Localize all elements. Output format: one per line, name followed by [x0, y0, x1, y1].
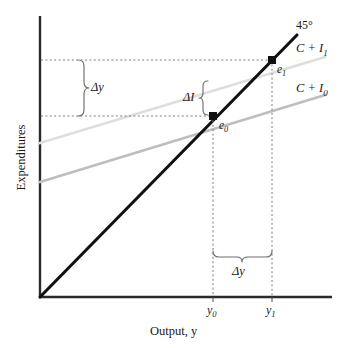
- brace-delta-y-horizontal: [213, 251, 272, 262]
- y-axis-title: Expenditures: [14, 103, 29, 213]
- forty-five-degree-line: [40, 35, 297, 297]
- x-tick-label-y1: y1: [266, 304, 276, 319]
- label-c-plus-i1: C + I1: [296, 42, 328, 58]
- label-delta-y-horizontal: Δy: [232, 265, 245, 278]
- x-tick-label-y0: y0: [207, 304, 217, 319]
- x-axis-title: Output, y: [150, 325, 197, 338]
- label-45-degree: 45°: [296, 19, 313, 31]
- label-delta-i: ΔI: [183, 91, 195, 104]
- label-equilibrium-e0: e0: [219, 120, 228, 135]
- keynesian-cross-figure: 45° C + I1 C + I0 e1 e0 Δy ΔI Δy y0 y1 O…: [0, 0, 343, 348]
- chart-canvas: [0, 0, 343, 348]
- label-c-plus-i0: C + I0: [296, 82, 328, 98]
- label-c-plus-i0-sub: 0: [323, 88, 328, 98]
- label-equilibrium-e1: e1: [277, 64, 286, 79]
- label-c-plus-i0-base: C + I: [296, 81, 323, 95]
- equilibrium-point-e0-marker: [209, 112, 217, 120]
- x-tick-label-y1-sub: 1: [271, 309, 275, 319]
- x-tick-label-y0-sub: 0: [212, 309, 216, 319]
- label-equilibrium-e1-sub: 1: [282, 69, 286, 78]
- label-c-plus-i1-base: C + I: [296, 41, 323, 55]
- expenditure-line-low: [40, 95, 325, 182]
- equilibrium-point-e1-marker: [268, 56, 276, 64]
- label-equilibrium-e0-sub: 0: [224, 125, 228, 134]
- brace-delta-i: [199, 81, 208, 115]
- label-c-plus-i1-sub: 1: [323, 48, 328, 58]
- brace-delta-y-vertical: [78, 60, 89, 116]
- label-delta-y-vertical: Δy: [91, 81, 104, 94]
